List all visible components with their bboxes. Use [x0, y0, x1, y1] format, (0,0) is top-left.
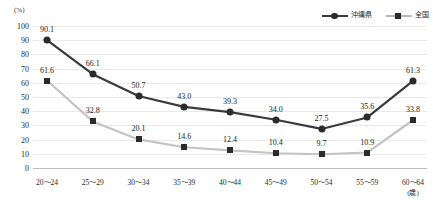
- x-axis-tick-label: 50～54: [311, 176, 333, 187]
- data-point-marker[interactable]: [273, 150, 279, 156]
- data-point-marker[interactable]: [90, 118, 96, 124]
- data-point-marker[interactable]: [364, 114, 371, 121]
- data-point-label: 50.7: [132, 81, 146, 90]
- x-axis-tick-label: 55～59: [356, 176, 378, 187]
- data-point-label: 61.3: [406, 66, 420, 75]
- x-axis-tick-label: 40～44: [219, 176, 241, 187]
- line-chart: 沖縄県 全国 (%) 1009080706050403020100 90.166…: [0, 0, 433, 200]
- data-point-label: 39.3: [223, 97, 237, 106]
- data-point-label: 14.6: [177, 132, 191, 141]
- x-axis-tick-label: 20～24: [36, 176, 58, 187]
- data-point-label: 27.5: [315, 114, 329, 123]
- data-point-label: 35.6: [360, 102, 374, 111]
- data-point-label: 10.4: [269, 138, 283, 147]
- data-point-label: 10.9: [360, 138, 374, 147]
- data-point-marker[interactable]: [272, 116, 279, 123]
- data-point-marker[interactable]: [364, 150, 370, 156]
- data-point-marker[interactable]: [227, 147, 233, 153]
- data-point-label: 61.6: [40, 66, 54, 75]
- data-point-label: 32.8: [86, 106, 100, 115]
- data-point-marker[interactable]: [181, 144, 187, 150]
- data-point-marker[interactable]: [410, 77, 417, 84]
- data-point-label: 90.1: [40, 25, 54, 34]
- data-point-marker[interactable]: [136, 136, 142, 142]
- data-point-label: 12.4: [223, 135, 237, 144]
- data-point-label: 20.1: [132, 124, 146, 133]
- data-point-label: 9.7: [317, 139, 327, 148]
- x-axis-tick-label: 30～34: [128, 176, 150, 187]
- x-axis-tick-label: 60～64: [402, 176, 424, 187]
- data-point-marker[interactable]: [227, 109, 234, 116]
- data-point-label: 66.1: [86, 59, 100, 68]
- data-point-marker[interactable]: [319, 151, 325, 157]
- data-point-marker[interactable]: [410, 117, 416, 123]
- data-point-marker[interactable]: [89, 71, 96, 78]
- data-point-label: 34.0: [269, 105, 283, 114]
- data-point-label: 33.8: [406, 105, 420, 114]
- data-point-marker[interactable]: [318, 125, 325, 132]
- series-lines: [0, 0, 433, 200]
- data-point-marker[interactable]: [44, 78, 50, 84]
- x-axis-tick-label: 35～39: [173, 176, 195, 187]
- x-axis-tick-label: 45～49: [265, 176, 287, 187]
- data-point-marker[interactable]: [181, 103, 188, 110]
- x-axis-unit: (歳): [407, 187, 419, 197]
- data-point-label: 43.0: [177, 92, 191, 101]
- data-point-marker[interactable]: [44, 37, 51, 44]
- data-point-marker[interactable]: [135, 93, 142, 100]
- x-axis-tick-label: 25～29: [82, 176, 104, 187]
